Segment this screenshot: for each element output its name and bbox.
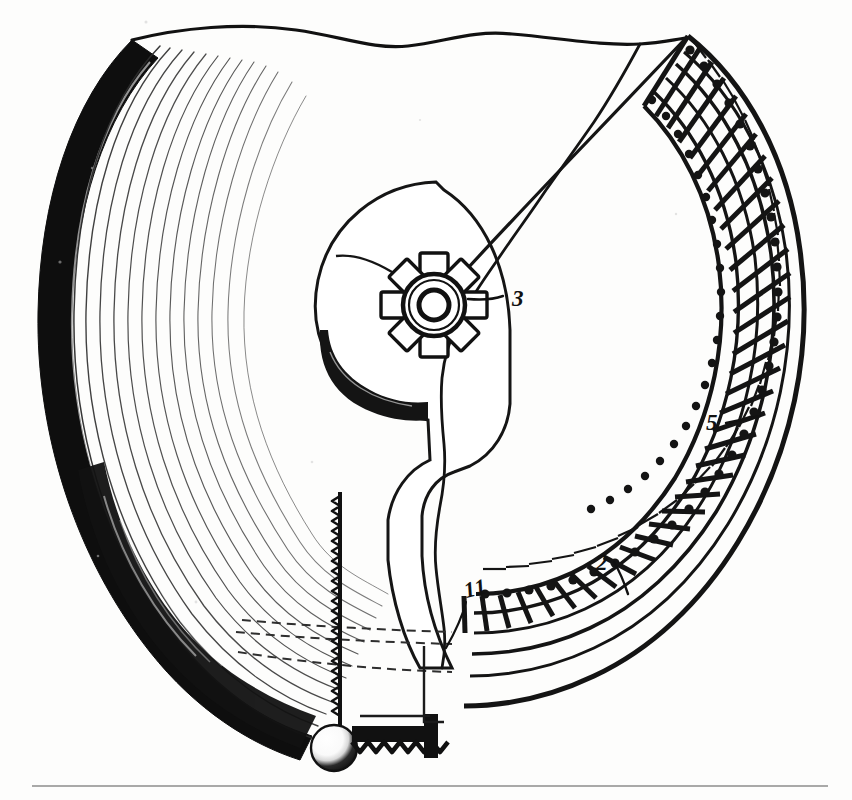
sprocket-hub [381, 253, 487, 357]
section-break-outline [132, 26, 686, 46]
chain-rail-mid-inner [474, 78, 758, 633]
technical-diagram: 3 5 2 11 [0, 0, 852, 800]
toothed-rack [332, 492, 340, 726]
figure-page: 3 5 2 11 [0, 0, 852, 800]
horizontal-toothed-bar [352, 714, 448, 758]
top-break-line [132, 26, 686, 46]
chain-rail-inner-edge [476, 106, 722, 594]
ball-sphere [311, 725, 357, 771]
roller-chain-track [464, 36, 804, 706]
callout-11-label: 11 [461, 573, 489, 603]
hub-bore [419, 290, 449, 320]
callout-5-label: 5 [706, 410, 718, 435]
callout-2-label: 2 [595, 550, 608, 575]
ball-end [311, 725, 357, 771]
coil-lower-shading [78, 462, 316, 748]
bar-right-cap [424, 714, 438, 758]
callout-3-label: 3 [511, 286, 524, 311]
